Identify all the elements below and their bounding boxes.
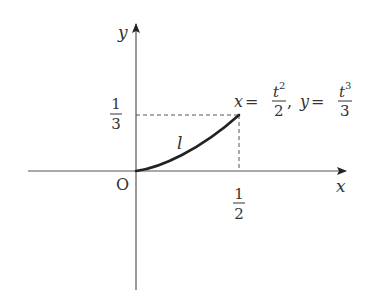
equation-y-var: y <box>299 92 310 111</box>
y-axis-label: y <box>117 22 128 42</box>
x-tick-fraction: 1 2 <box>233 185 245 223</box>
curve-l <box>136 115 239 171</box>
equation-x-den: 2 <box>274 102 284 120</box>
y-tick-numerator: 1 <box>111 95 121 113</box>
x-tick-denominator: 2 <box>234 205 244 223</box>
equation-separator: , <box>287 92 292 111</box>
equation-y-den: 3 <box>340 102 350 120</box>
curve-label: l <box>177 133 182 153</box>
equation-y-num-exp: 3 <box>345 80 351 91</box>
origin-label: O <box>116 175 129 194</box>
parametric-equation: x = t 2 2 , y = t 3 3 <box>234 80 352 120</box>
equation-y-eq: = <box>311 92 324 111</box>
y-tick-denominator: 3 <box>111 115 121 133</box>
x-axis-label: x <box>336 176 346 196</box>
x-tick-numerator: 1 <box>234 185 244 203</box>
equation-x-var: x <box>234 92 243 111</box>
equation-x-num-exp: 2 <box>279 80 285 91</box>
y-tick-fraction: 1 3 <box>110 95 122 133</box>
equation-x-eq: = <box>245 92 258 111</box>
diagram-canvas: y x O 1 3 1 2 l x = t 2 2 , y = t 3 3 <box>0 0 372 296</box>
